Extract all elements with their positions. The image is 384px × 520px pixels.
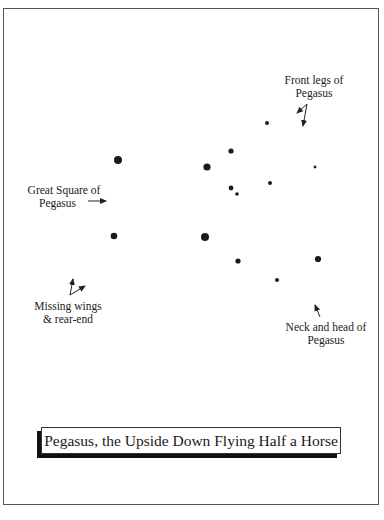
star-icon <box>201 233 209 241</box>
star-icon <box>235 258 240 263</box>
label-great-square-line2: Pegasus <box>22 197 106 210</box>
label-front-legs: Front legs of Pegasus <box>276 74 352 100</box>
label-missing-wings-line1: Missing wings <box>26 300 110 313</box>
label-front-legs-line1: Front legs of <box>276 74 352 87</box>
label-missing-wings-line2: & rear-end <box>26 313 110 326</box>
star-icon <box>203 163 210 170</box>
label-neck-head-line2: Pegasus <box>278 334 374 347</box>
star-icon <box>268 181 272 185</box>
star-icon <box>315 256 321 262</box>
star-icon <box>314 166 317 169</box>
label-great-square: Great Square of Pegasus <box>22 184 106 210</box>
star-icon <box>229 186 234 191</box>
label-missing-wings: Missing wings & rear-end <box>26 300 110 326</box>
star-icon <box>114 156 122 164</box>
neck-head-arrow-icon <box>315 305 320 317</box>
label-front-legs-line2: Pegasus <box>276 87 352 100</box>
missing-wings-arrow-icon <box>70 279 85 295</box>
star-icon <box>265 121 269 125</box>
star-icon <box>275 278 279 282</box>
caption-box: Pegasus, the Upside Down Flying Half a H… <box>41 427 341 454</box>
stars <box>111 121 321 282</box>
label-neck-head: Neck and head of Pegasus <box>278 321 374 347</box>
label-neck-head-line1: Neck and head of <box>278 321 374 334</box>
caption-title: Pegasus, the Upside Down Flying Half a H… <box>44 432 338 450</box>
star-icon <box>228 148 233 153</box>
label-great-square-line1: Great Square of <box>22 184 106 197</box>
front-legs-arrow-icon <box>297 104 307 126</box>
star-icon <box>111 233 118 240</box>
star-icon <box>235 192 239 196</box>
